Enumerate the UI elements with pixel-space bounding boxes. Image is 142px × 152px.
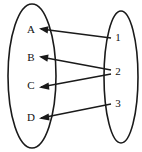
set-element-D: D: [27, 111, 35, 123]
mapping-diagram: A B C D 1 2 3: [0, 0, 142, 152]
arrow-3-to-D-line: [41, 104, 111, 118]
arrow-2-to-B-line: [41, 57, 111, 70]
arrow-2-to-B-head: [39, 55, 49, 62]
arrow-1-to-A-head: [39, 26, 49, 33]
arrow-2-to-C-line: [41, 74, 111, 87]
set-element-A: A: [27, 23, 35, 35]
arrow-2-to-C-head: [39, 83, 49, 90]
set-element-1: 1: [115, 31, 121, 43]
set-element-3: 3: [115, 97, 121, 109]
arrow-3-to-D-head: [39, 113, 50, 120]
set-element-B: B: [27, 51, 34, 63]
arrow-2-to-C: [39, 74, 111, 90]
mapping-diagram-canvas: A B C D 1 2 3: [0, 0, 142, 152]
set-element-2: 2: [115, 65, 121, 77]
right-oval-set-outline: [104, 11, 138, 143]
arrow-3-to-D: [39, 104, 111, 121]
arrow-2-to-B: [39, 55, 111, 70]
set-element-C: C: [27, 79, 34, 91]
